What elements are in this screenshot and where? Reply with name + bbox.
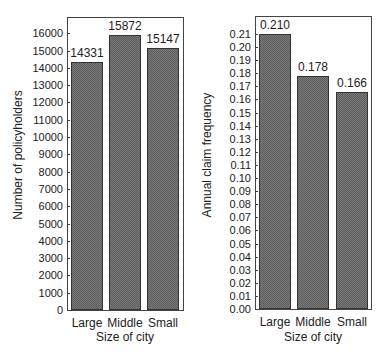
x-axis-label: Size of city — [253, 330, 373, 344]
y-tick-mark — [255, 230, 258, 231]
y-tick-mark — [255, 99, 258, 100]
y-tick-mark — [255, 257, 258, 258]
bar-small — [336, 92, 368, 309]
bar-value-label: 0.210 — [250, 18, 300, 32]
y-tick-label: 0.01 — [211, 290, 251, 302]
y-tick-label: 0.10 — [211, 172, 251, 184]
y-tick-mark — [255, 34, 258, 35]
y-tick-mark — [255, 73, 258, 74]
y-tick-label: 0.07 — [211, 211, 251, 223]
y-tick-mark — [255, 217, 258, 218]
claim-frequency-chart: Annual claim frequency Size of city 0.00… — [0, 0, 194, 354]
y-tick-mark — [255, 191, 258, 192]
y-tick-label: 0.17 — [211, 80, 251, 92]
y-tick-label: 0.00 — [211, 303, 251, 315]
y-tick-label: 0.04 — [211, 251, 251, 263]
y-tick-label: 0.15 — [211, 107, 251, 119]
y-tick-mark — [255, 152, 258, 153]
y-tick-label: 0.13 — [211, 133, 251, 145]
y-tick-label: 0.16 — [211, 93, 251, 105]
y-tick-mark — [255, 60, 258, 61]
y-tick-label: 0.05 — [211, 238, 251, 250]
y-tick-mark — [255, 126, 258, 127]
bar-large — [259, 34, 291, 309]
y-tick-mark — [255, 139, 258, 140]
y-tick-label: 0.20 — [211, 41, 251, 53]
y-tick-mark — [255, 244, 258, 245]
y-tick-label: 0.11 — [211, 159, 251, 171]
y-tick-mark — [255, 47, 258, 48]
y-tick-label: 0.08 — [211, 198, 251, 210]
y-tick-mark — [255, 309, 258, 310]
bar-middle — [297, 76, 329, 309]
y-tick-label: 0.21 — [211, 28, 251, 40]
y-tick-label: 0.06 — [211, 224, 251, 236]
y-tick-mark — [255, 86, 258, 87]
y-tick-mark — [255, 165, 258, 166]
x-category-label: Small — [329, 315, 375, 329]
y-tick-mark — [255, 178, 258, 179]
y-tick-label: 0.19 — [211, 54, 251, 66]
y-tick-mark — [255, 296, 258, 297]
y-tick-label: 0.02 — [211, 277, 251, 289]
y-tick-label: 0.09 — [211, 185, 251, 197]
y-tick-label: 0.03 — [211, 264, 251, 276]
bar-value-label: 0.166 — [327, 76, 377, 90]
bar-value-label: 0.178 — [288, 60, 338, 74]
y-tick-label: 0.12 — [211, 146, 251, 158]
y-tick-mark — [255, 204, 258, 205]
y-tick-mark — [255, 270, 258, 271]
y-tick-label: 0.18 — [211, 67, 251, 79]
y-tick-mark — [255, 283, 258, 284]
y-tick-mark — [255, 113, 258, 114]
y-tick-label: 0.14 — [211, 120, 251, 132]
